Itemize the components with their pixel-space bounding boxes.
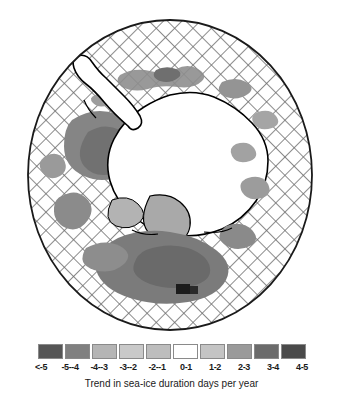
- legend-tick-label: 3-4: [260, 361, 287, 373]
- legend-swatch: [92, 344, 117, 359]
- legend-tick-label: 4-5: [289, 361, 316, 373]
- legend-tick-label: <-5: [28, 361, 55, 373]
- legend-swatch: [254, 344, 279, 359]
- legend-tick-label: -4--3: [86, 361, 113, 373]
- legend-swatch: [227, 344, 252, 359]
- figure-root: <-5 -5--4 -4--3 -3--2 -2--1 0-1 1-2 2-3 …: [0, 0, 343, 403]
- patch-ross-sea-max: [176, 284, 190, 294]
- legend-tick-label: 1-2: [202, 361, 229, 373]
- legend-swatch: [65, 344, 90, 359]
- map-panel: [0, 0, 343, 338]
- legend-tick-label: -3--2: [115, 361, 142, 373]
- legend-swatch: [281, 344, 306, 359]
- legend-tick-label: 0-1: [173, 361, 200, 373]
- legend-swatch: [38, 344, 63, 359]
- legend-swatch: [146, 344, 171, 359]
- legend: <-5 -5--4 -4--3 -3--2 -2--1 0-1 1-2 2-3 …: [0, 340, 343, 403]
- legend-tick-label: -2--1: [144, 361, 171, 373]
- legend-swatch: [119, 344, 144, 359]
- patch-ross-sea-max-secondary: [190, 286, 198, 294]
- legend-caption: Trend in sea-ice duration days per year: [0, 377, 343, 391]
- legend-swatches: [0, 344, 343, 361]
- map-contents: [28, 20, 312, 330]
- antarctic-map: [0, 0, 343, 338]
- legend-swatch: [173, 344, 198, 359]
- legend-tick-labels: <-5 -5--4 -4--3 -3--2 -2--1 0-1 1-2 2-3 …: [0, 361, 343, 375]
- legend-tick-label: -5--4: [57, 361, 84, 373]
- legend-tick-label: 2-3: [231, 361, 258, 373]
- legend-swatch: [200, 344, 225, 359]
